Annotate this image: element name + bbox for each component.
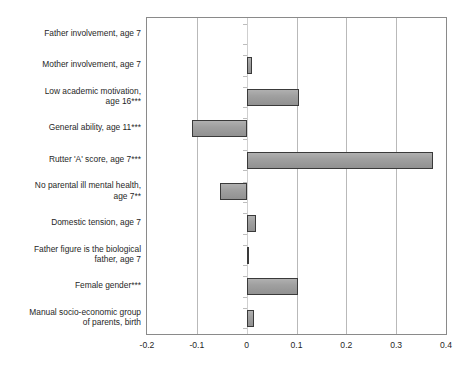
axis-tick bbox=[243, 44, 247, 45]
bar bbox=[220, 183, 246, 200]
bar bbox=[247, 310, 254, 327]
bar bbox=[247, 215, 256, 232]
category-label: Manual socio-economic group of parents, … bbox=[0, 307, 141, 328]
x-tick-label: 0 bbox=[244, 340, 249, 350]
axis-tick bbox=[243, 107, 247, 108]
axis-tick bbox=[243, 276, 247, 277]
bar bbox=[247, 152, 433, 169]
plot-area bbox=[146, 17, 447, 335]
category-label: Female gender*** bbox=[0, 280, 141, 291]
x-tick-label: 0.3 bbox=[390, 340, 402, 350]
axis-tick bbox=[243, 328, 247, 329]
category-label: Domestic tension, age 7 bbox=[0, 217, 141, 228]
axis-tick bbox=[243, 139, 247, 140]
gridline--0.1 bbox=[197, 18, 198, 334]
axis-tick bbox=[243, 265, 247, 266]
category-label: Father involvement, age 7 bbox=[0, 28, 141, 39]
gridline-0.2 bbox=[346, 18, 347, 334]
bar bbox=[247, 57, 252, 74]
x-tick-label: 0.1 bbox=[291, 340, 303, 350]
category-label: Rutter 'A' score, age 7*** bbox=[0, 154, 141, 165]
x-tick-label: -0.2 bbox=[140, 340, 155, 350]
category-axis-labels: Father involvement, age 7Mother involvem… bbox=[0, 17, 141, 335]
axis-tick bbox=[243, 202, 247, 203]
x-axis-tick-labels: -0.2-0.100.10.20.30.4 bbox=[0, 340, 470, 358]
x-tick-label: 0.4 bbox=[440, 340, 452, 350]
axis-tick bbox=[243, 76, 247, 77]
bar bbox=[247, 278, 299, 295]
x-tick-label: 0.2 bbox=[340, 340, 352, 350]
bar bbox=[192, 120, 247, 137]
axis-tick bbox=[243, 213, 247, 214]
x-tick-label: -0.1 bbox=[189, 340, 204, 350]
bar-chart: Father involvement, age 7Mother involvem… bbox=[0, 0, 470, 372]
category-label: No parental ill mental health, age 7** bbox=[0, 180, 141, 201]
axis-tick bbox=[243, 118, 247, 119]
category-label: General ability, age 11*** bbox=[0, 122, 141, 133]
bar bbox=[247, 89, 300, 106]
axis-tick bbox=[243, 170, 247, 171]
axis-tick bbox=[243, 55, 247, 56]
category-label: Mother involvement, age 7 bbox=[0, 59, 141, 70]
category-label: Father figure is the biological father, … bbox=[0, 244, 141, 265]
gridline-0.3 bbox=[396, 18, 397, 334]
category-label: Low academic motivation, age 16*** bbox=[0, 86, 141, 107]
axis-tick bbox=[243, 297, 247, 298]
axis-tick bbox=[243, 234, 247, 235]
bar bbox=[247, 247, 250, 264]
axis-tick bbox=[243, 24, 247, 25]
